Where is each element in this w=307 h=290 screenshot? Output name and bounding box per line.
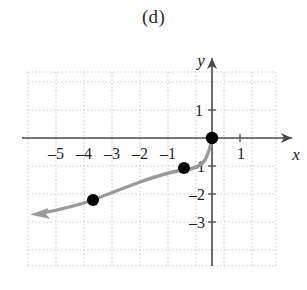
x-tick-label: 1 [237,145,245,162]
x-tick-labels: –5 –4 –3 –2 –1 1 [47,145,245,162]
x-tick-label: –5 [47,145,64,162]
x-tick-label: –1 [159,145,176,162]
x-tick-label: –3 [103,145,120,162]
x-axis-label: x [291,145,300,164]
grid-lines [28,72,276,266]
data-point [87,194,99,206]
figure-container: (d) [0,0,307,290]
curve-path [42,138,212,213]
data-point [206,132,218,144]
y-axis-label: y [195,51,205,70]
y-tick-label: –2 [188,186,205,203]
x-tick-label: –4 [75,145,92,162]
y-tick-label: 1 [195,102,203,119]
y-tick-label: –3 [188,214,205,231]
plot-area: x y –5 –4 –3 –2 –1 1 1 –1 –2 –3 [0,0,307,290]
data-point [178,162,190,174]
coordinate-plot-svg: x y –5 –4 –3 –2 –1 1 1 –1 –2 –3 [0,0,307,290]
x-tick-label: –2 [131,145,148,162]
